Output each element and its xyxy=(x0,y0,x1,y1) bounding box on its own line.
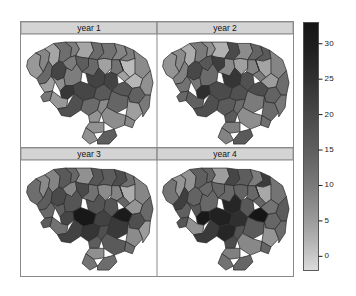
panel-year-4[interactable] xyxy=(157,148,293,276)
colorbar-tick-label-10: 10 xyxy=(325,181,334,189)
colorbar-gradient xyxy=(304,23,319,271)
trellis-plot-svg xyxy=(0,0,356,296)
panel-year-1[interactable] xyxy=(21,22,157,147)
colorbar-tick-label-5: 5 xyxy=(325,217,330,225)
strip-title-year-1: year 1 xyxy=(21,24,157,33)
strip-title-year-4: year 4 xyxy=(157,150,293,159)
strip-title-year-3: year 3 xyxy=(21,150,157,159)
panel-year-2[interactable] xyxy=(157,22,293,147)
strip-title-year-2: year 2 xyxy=(157,24,293,33)
colorbar-ticks xyxy=(319,44,323,257)
colorbar-tick-label-30: 30 xyxy=(325,40,334,48)
figure-root: year 1 year 2 year 3 year 4 302520151050 xyxy=(0,0,356,296)
colorbar-tick-label-25: 25 xyxy=(325,75,334,83)
colorbar-tick-label-20: 20 xyxy=(325,111,334,119)
legend-colorbar[interactable] xyxy=(304,23,323,271)
colorbar-tick-label-15: 15 xyxy=(325,146,334,154)
colorbar-tick-label-0: 0 xyxy=(325,252,330,260)
panel-year-3[interactable] xyxy=(21,148,157,276)
